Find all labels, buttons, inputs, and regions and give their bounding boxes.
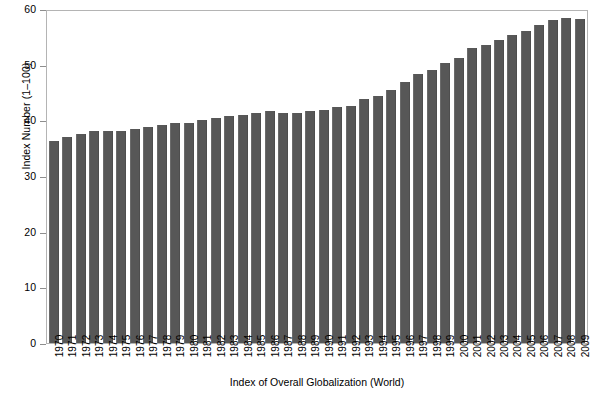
bar xyxy=(238,115,248,343)
bar xyxy=(224,116,234,343)
bar xyxy=(521,31,531,343)
bar xyxy=(386,90,396,343)
bar xyxy=(319,110,329,343)
bar xyxy=(561,18,571,343)
y-axis-tick: 40 xyxy=(0,121,46,122)
y-axis-tick: 20 xyxy=(0,233,46,234)
bar xyxy=(49,141,59,343)
bar xyxy=(359,99,369,343)
bar xyxy=(534,25,544,343)
y-axis-tick-label: 40 xyxy=(24,114,36,126)
bar xyxy=(265,111,275,343)
bar xyxy=(197,120,207,343)
y-axis-tick-mark xyxy=(40,344,46,345)
y-axis-tick-label: 50 xyxy=(24,59,36,71)
bar xyxy=(103,131,113,343)
bar xyxy=(170,123,180,343)
bar xyxy=(278,113,288,343)
bar xyxy=(427,70,437,343)
bar-series xyxy=(47,11,587,343)
y-axis-tick: 10 xyxy=(0,288,46,289)
y-axis-tick-label: 30 xyxy=(24,170,36,182)
bar xyxy=(184,123,194,343)
bar xyxy=(400,82,410,343)
bar xyxy=(130,129,140,343)
bar xyxy=(332,107,342,343)
y-axis-tick: 0 xyxy=(0,344,46,345)
y-axis-tick-label: 0 xyxy=(30,337,36,349)
bar xyxy=(440,63,450,343)
bar xyxy=(305,111,315,343)
bar-chart-figure: Index Number (1–100) 0102030405060 19701… xyxy=(0,0,598,395)
y-axis-tick: 60 xyxy=(0,10,46,11)
bar xyxy=(494,40,504,343)
y-axis-tick-label: 10 xyxy=(24,281,36,293)
bar xyxy=(481,45,491,343)
bar xyxy=(76,134,86,343)
bar xyxy=(346,106,356,343)
bar xyxy=(116,131,126,343)
bar xyxy=(454,58,464,343)
y-axis-tick: 50 xyxy=(0,66,46,67)
y-axis-tick-label: 60 xyxy=(24,3,36,15)
plot-area xyxy=(46,10,588,344)
bar xyxy=(157,125,167,343)
y-axis-tick-label: 20 xyxy=(24,226,36,238)
bar xyxy=(211,118,221,343)
bar xyxy=(575,19,585,343)
bar xyxy=(89,131,99,343)
bar xyxy=(251,113,261,343)
bar xyxy=(62,137,72,343)
bar xyxy=(292,113,302,343)
x-axis-tick-label: 2009 xyxy=(580,335,591,358)
bar xyxy=(143,127,153,343)
y-axis-tick: 30 xyxy=(0,177,46,178)
bar xyxy=(507,35,517,343)
bar xyxy=(373,96,383,343)
x-axis-title: Index of Overall Globalization (World) xyxy=(46,376,588,388)
bar xyxy=(548,20,558,343)
bar xyxy=(467,48,477,343)
bar xyxy=(413,74,423,343)
